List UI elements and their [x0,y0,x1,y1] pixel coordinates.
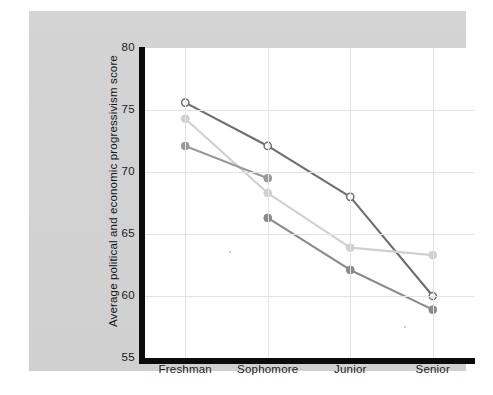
scan-speck [129,106,131,108]
gridline-horizontal [145,296,474,297]
x-tick-label: Senior [416,363,450,375]
gridline-vertical [185,48,186,358]
gridline-horizontal [145,172,474,173]
y-tick-label: 55 [103,351,135,363]
x-tick-label: Sophomore [237,363,298,375]
y-tick-label: 60 [103,289,135,301]
figure-panel: Average political and economic progressi… [29,11,466,371]
y-tick-label: 70 [103,165,135,177]
x-axis-ticks: FreshmanSophomoreJuniorSenior [144,363,476,385]
plot-area [144,48,474,358]
gridline-horizontal [145,234,474,235]
gridline-horizontal [145,110,474,111]
y-axis-title-holder: Average political and economic progressi… [75,41,99,341]
x-tick-label: Freshman [159,363,212,375]
x-tick-label: Junior [334,363,367,375]
scan-speck [229,251,231,253]
gridline-vertical [268,48,269,358]
series-line [185,103,433,296]
y-tick-label: 80 [103,41,135,53]
chart-figure: Average political and economic progressi… [0,0,493,395]
y-axis-spine [139,47,145,363]
y-tick-label: 75 [103,103,135,115]
series-line [185,146,268,178]
gridline-vertical [433,48,434,358]
y-tick-label: 65 [103,227,135,239]
y-axis-ticks: 807570656055 [99,11,135,371]
scan-speck [404,326,406,328]
gridline-vertical [350,48,351,358]
series-canvas [144,48,474,358]
